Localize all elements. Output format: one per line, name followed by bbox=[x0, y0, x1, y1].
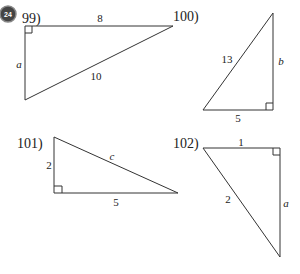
side-label-hypotenuse: 2 bbox=[225, 193, 231, 205]
problem-number: 102) bbox=[173, 136, 199, 152]
problem-set-badge: 24 bbox=[0, 6, 16, 22]
right-angle-marker-icon bbox=[273, 148, 280, 155]
worksheet-canvas: 24 99) 8 a 10 100) 13 b 5 101) 2 c 5 102… bbox=[0, 0, 300, 274]
side-label-bottom: 5 bbox=[235, 112, 241, 124]
right-angle-marker-icon bbox=[266, 103, 273, 110]
side-label-top: 8 bbox=[97, 12, 103, 24]
problem-number: 101) bbox=[17, 136, 43, 152]
right-triangle bbox=[54, 137, 178, 193]
side-label-top: 1 bbox=[238, 136, 244, 148]
problem-100: 100) 13 b 5 bbox=[173, 9, 284, 124]
problem-number: 100) bbox=[173, 9, 199, 25]
side-label-left: 2 bbox=[46, 159, 52, 171]
side-label-hypotenuse: c bbox=[110, 150, 115, 162]
side-label-hypotenuse: 13 bbox=[222, 53, 234, 65]
problem-99: 99) 8 a 10 bbox=[16, 11, 173, 100]
side-label-right: a bbox=[283, 197, 289, 209]
problem-102: 102) 1 2 a bbox=[173, 136, 289, 257]
right-triangle bbox=[203, 148, 280, 257]
right-triangle bbox=[203, 13, 273, 110]
problem-number: 99) bbox=[22, 11, 41, 27]
side-label-right: b bbox=[278, 55, 284, 67]
right-angle-marker-icon bbox=[54, 186, 62, 193]
badge-label: 24 bbox=[4, 11, 12, 18]
right-triangle bbox=[25, 26, 173, 100]
problem-101: 101) 2 c 5 bbox=[17, 136, 178, 208]
side-label-hypotenuse: 10 bbox=[91, 70, 103, 82]
right-angle-marker-icon bbox=[25, 26, 32, 33]
side-label-bottom: 5 bbox=[113, 196, 119, 208]
side-label-left: a bbox=[16, 58, 22, 70]
